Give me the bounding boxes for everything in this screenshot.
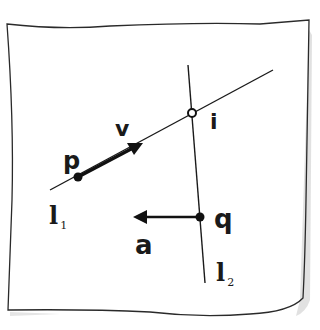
line-l2 <box>188 65 205 283</box>
frame-border <box>7 20 309 316</box>
label-l1-subscript: 1 <box>60 219 67 232</box>
label-p: p <box>63 149 80 173</box>
label-l2: l2 <box>216 261 234 285</box>
diagram-canvas <box>0 0 320 330</box>
label-l1-main: l <box>49 201 58 230</box>
paper-shadow-bottom <box>10 312 60 316</box>
point-i <box>188 109 196 117</box>
point-q <box>196 213 205 222</box>
label-l1: l1 <box>49 204 67 228</box>
label-q: q <box>214 206 233 232</box>
label-a: a <box>135 232 153 258</box>
line-l1 <box>50 70 273 190</box>
label-v: v <box>115 118 129 140</box>
label-l2-subscript: 2 <box>227 276 234 289</box>
label-i: i <box>210 111 218 133</box>
vector-v-shaft <box>78 148 133 177</box>
arrowhead-a-icon <box>133 210 147 224</box>
label-l2-main: l <box>216 258 225 287</box>
